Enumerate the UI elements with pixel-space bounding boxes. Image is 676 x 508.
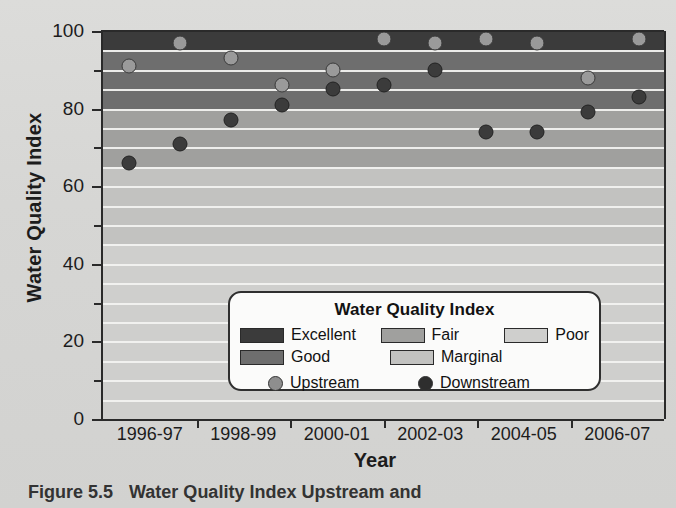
legend-item-excellent: Excellent bbox=[240, 326, 381, 344]
gridline bbox=[103, 70, 664, 72]
legend-item-fair: Fair bbox=[381, 326, 505, 344]
legend-item-poor: Poor bbox=[504, 326, 589, 344]
swatch-good bbox=[240, 350, 284, 365]
point-upstream-2001-02 bbox=[376, 31, 391, 46]
y-tick-minor bbox=[94, 303, 101, 305]
point-upstream-2005-06 bbox=[580, 70, 595, 85]
plot-top-border bbox=[101, 30, 664, 32]
legend-item-downstream: Downstream bbox=[418, 374, 530, 392]
y-tick-major bbox=[92, 31, 101, 33]
point-downstream-2003-04 bbox=[478, 124, 493, 139]
gridline bbox=[103, 147, 664, 149]
point-upstream-1999-00 bbox=[274, 78, 289, 93]
swatch-marginal bbox=[390, 350, 434, 365]
y-tick-major bbox=[92, 264, 101, 266]
point-upstream-1996-97 bbox=[121, 58, 136, 73]
marker-upstream-icon bbox=[268, 376, 283, 391]
legend-title: Water Quality Index bbox=[240, 300, 589, 320]
y-axis-line bbox=[101, 30, 103, 420]
legend-label-fair: Fair bbox=[432, 326, 460, 344]
swatch-fair bbox=[381, 328, 425, 343]
legend-item-upstream: Upstream bbox=[268, 374, 418, 392]
point-upstream-2003-04 bbox=[478, 31, 493, 46]
point-downstream-2006-07 bbox=[631, 89, 646, 104]
gridline bbox=[103, 225, 664, 227]
y-tick-major bbox=[92, 419, 101, 421]
point-upstream-2004-05 bbox=[529, 35, 544, 50]
legend-series-row: Upstream Downstream bbox=[240, 371, 589, 395]
point-downstream-2002-03 bbox=[427, 62, 442, 77]
y-tick-label: 80 bbox=[22, 98, 84, 120]
water-quality-index-figure: Water Quality Index 020406080100 1996-97… bbox=[0, 0, 676, 508]
gridline bbox=[103, 264, 664, 266]
y-tick-minor bbox=[94, 225, 101, 227]
gridline bbox=[103, 128, 664, 130]
x-axis-title: Year bbox=[80, 449, 670, 472]
y-tick-major bbox=[92, 186, 101, 188]
point-downstream-1999-00 bbox=[274, 97, 289, 112]
swatch-excellent bbox=[240, 328, 284, 343]
point-downstream-2004-05 bbox=[529, 124, 544, 139]
legend-label-good: Good bbox=[291, 348, 330, 366]
point-downstream-2000-01 bbox=[325, 82, 340, 97]
y-tick-major bbox=[92, 109, 101, 111]
gridline bbox=[103, 283, 664, 285]
gridline bbox=[103, 167, 664, 169]
gridline bbox=[103, 244, 664, 246]
point-downstream-2001-02 bbox=[376, 78, 391, 93]
point-upstream-2006-07 bbox=[631, 31, 646, 46]
legend-label-downstream: Downstream bbox=[440, 374, 530, 392]
y-axis-tick-labels: 020406080100 bbox=[18, 0, 84, 508]
point-upstream-2000-01 bbox=[325, 62, 340, 77]
y-tick-label: 20 bbox=[22, 330, 84, 352]
swatch-poor bbox=[504, 328, 548, 343]
band-fair bbox=[103, 109, 664, 167]
point-upstream-1997-98 bbox=[172, 35, 187, 50]
legend-label-upstream: Upstream bbox=[290, 374, 359, 392]
y-tick-label: 100 bbox=[22, 20, 84, 42]
legend-label-excellent: Excellent bbox=[291, 326, 356, 344]
point-downstream-1996-97 bbox=[121, 155, 136, 170]
figure-caption-text: Water Quality Index Upstream and bbox=[129, 482, 421, 502]
point-downstream-1997-98 bbox=[172, 136, 187, 151]
legend-label-marginal: Marginal bbox=[441, 348, 502, 366]
legend-item-good: Good bbox=[240, 348, 390, 366]
point-downstream-2005-06 bbox=[580, 105, 595, 120]
legend-item-marginal: Marginal bbox=[390, 348, 522, 366]
gridline bbox=[103, 50, 664, 52]
y-tick-major bbox=[92, 341, 101, 343]
y-tick-minor bbox=[94, 147, 101, 149]
y-tick-minor bbox=[94, 70, 101, 72]
marker-downstream-icon bbox=[418, 376, 433, 391]
x-tick-label: 2006-07 bbox=[562, 424, 672, 445]
gridline bbox=[103, 400, 664, 402]
figure-caption: Figure 5.5Water Quality Index Upstream a… bbox=[28, 482, 648, 503]
point-upstream-2002-03 bbox=[427, 35, 442, 50]
chart-legend: Water Quality Index Excellent Fair Poor … bbox=[228, 291, 601, 391]
legend-band-row-2: Good Marginal bbox=[240, 346, 589, 368]
gridline bbox=[103, 206, 664, 208]
legend-label-poor: Poor bbox=[555, 326, 589, 344]
legend-band-row-1: Excellent Fair Poor bbox=[240, 324, 589, 346]
gridline bbox=[103, 186, 664, 188]
y-tick-label: 60 bbox=[22, 175, 84, 197]
figure-number: Figure 5.5 bbox=[28, 482, 113, 502]
point-downstream-1998-99 bbox=[223, 113, 238, 128]
y-tick-minor bbox=[94, 380, 101, 382]
y-tick-label: 40 bbox=[22, 253, 84, 275]
x-axis-line bbox=[101, 419, 664, 421]
y-tick-label: 0 bbox=[22, 408, 84, 430]
point-upstream-1998-99 bbox=[223, 51, 238, 66]
